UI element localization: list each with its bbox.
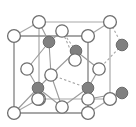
crystal-structure-svg bbox=[0, 0, 136, 127]
atom-filled-outside-upper-right bbox=[116, 39, 128, 51]
atom-open-corner-ftl bbox=[8, 30, 21, 43]
atom-open-corner-bbr bbox=[104, 93, 117, 106]
atom-open-edge-left-low bbox=[32, 93, 44, 105]
atom-open-edge-right-low bbox=[82, 93, 94, 105]
atom-open-corner-fbr bbox=[82, 107, 95, 120]
atom-open-corner-btr bbox=[104, 16, 117, 29]
atom-open-corner-ftr bbox=[82, 30, 95, 43]
atom-filled-tetra-lower-right bbox=[82, 82, 94, 94]
filled-atoms-group bbox=[32, 36, 128, 99]
atom-filled-tetra-upper-left bbox=[43, 36, 55, 48]
crystal-structure-figure bbox=[0, 0, 136, 127]
atom-filled-outside-lower-right bbox=[116, 87, 128, 99]
atom-open-face-back bbox=[69, 54, 81, 66]
open-atoms-group bbox=[8, 16, 117, 120]
atom-open-face-right bbox=[93, 63, 105, 75]
atom-open-face-left bbox=[21, 63, 33, 75]
atom-open-face-bottom bbox=[56, 101, 68, 113]
atom-open-corner-fbl bbox=[8, 107, 21, 120]
atom-open-face-front bbox=[45, 69, 57, 81]
atom-open-corner-btl bbox=[33, 16, 46, 29]
atom-open-face-top bbox=[56, 25, 68, 37]
